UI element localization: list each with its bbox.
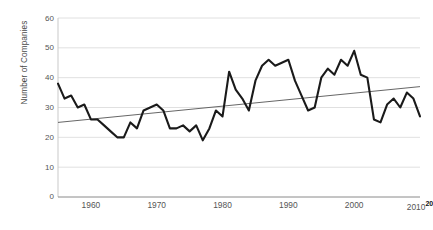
x-tick-2010: 201020: [407, 200, 433, 212]
companies-line-series: [58, 51, 420, 141]
x-tick-1960: 1960: [82, 200, 101, 210]
x-tick-1990: 1990: [279, 200, 298, 210]
trend-line-series: [58, 87, 420, 123]
x-tick-1970: 1970: [147, 200, 166, 210]
x-tick-1980: 1980: [213, 200, 232, 210]
x-axis-overflow-label: 20: [425, 200, 433, 207]
x-tick-2000: 2000: [345, 200, 364, 210]
